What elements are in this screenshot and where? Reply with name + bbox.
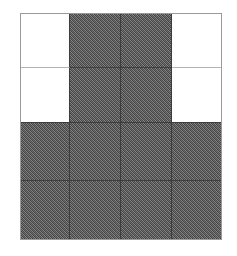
grid-cell-r3c1 bbox=[20, 123, 70, 181]
grid-cell-r4c1 bbox=[20, 181, 70, 240]
grid-cell-r3c2 bbox=[70, 123, 121, 181]
grid-cell-r4c2 bbox=[70, 181, 121, 240]
grid-cell-r1c3 bbox=[121, 13, 172, 68]
grid-cell-r4c3 bbox=[121, 181, 172, 240]
grid-cell-r1c4 bbox=[172, 13, 222, 68]
grid-row bbox=[20, 68, 222, 123]
grid-row bbox=[20, 13, 222, 68]
grid-cell-r3c4 bbox=[172, 123, 222, 181]
grid-cell-r4c4 bbox=[172, 181, 222, 240]
grid-cell-r1c2 bbox=[70, 13, 121, 68]
grid-cell-r2c1 bbox=[20, 68, 70, 123]
grid-cell-r1c1 bbox=[20, 13, 70, 68]
grid-cell-r2c4 bbox=[172, 68, 222, 123]
grid-row bbox=[20, 181, 222, 240]
grid-cell-r2c2 bbox=[70, 68, 121, 123]
grid-figure bbox=[20, 13, 222, 240]
grid-cell-r3c3 bbox=[121, 123, 172, 181]
figure-canvas bbox=[0, 0, 237, 256]
grid-row bbox=[20, 123, 222, 181]
grid-cell-r2c3 bbox=[121, 68, 172, 123]
